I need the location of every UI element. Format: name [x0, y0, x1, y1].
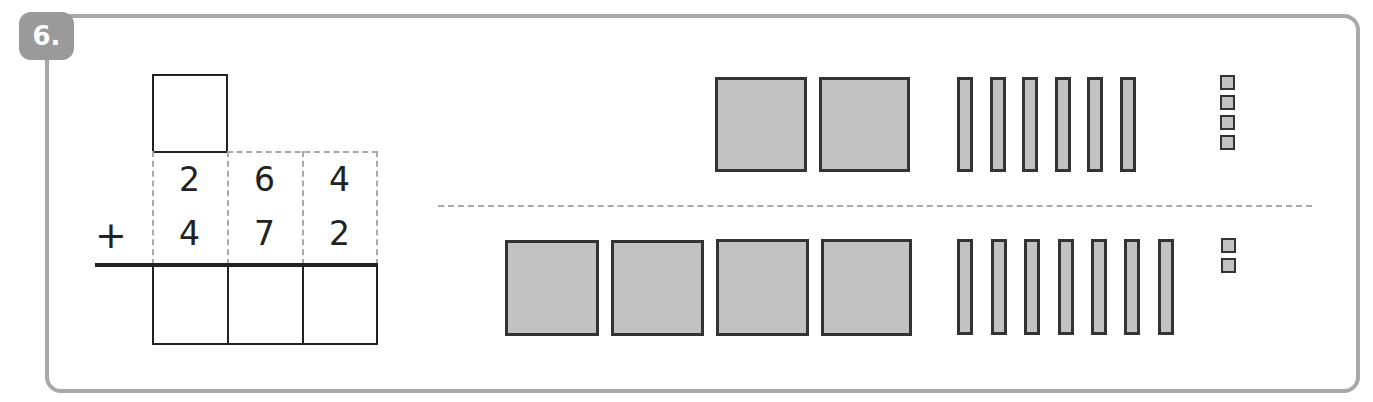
ten-rod: [1120, 77, 1136, 172]
ten-rod: [957, 239, 973, 335]
addend-1-hundreds: 2: [152, 160, 227, 199]
addend-1-tens: 6: [227, 160, 302, 199]
unit-cube: [1221, 258, 1236, 273]
hundred-block: [715, 77, 807, 172]
unit-cube: [1220, 135, 1235, 150]
ten-rod: [991, 239, 1007, 335]
addend-2-hundreds: 4: [152, 214, 227, 253]
ten-rod: [1087, 77, 1103, 172]
unit-cube: [1221, 238, 1236, 253]
ten-rod: [1091, 239, 1107, 335]
hundred-block: [716, 239, 809, 336]
ten-rod: [1055, 77, 1071, 172]
unit-cube: [1220, 75, 1235, 90]
unit-cube: [1220, 115, 1235, 130]
unit-cube: [1220, 95, 1235, 110]
answer-box-ones[interactable]: [302, 265, 378, 345]
hundred-block: [821, 239, 912, 336]
ten-rod: [1124, 239, 1140, 335]
exercise-number-badge: 6.: [19, 12, 74, 60]
ten-rod: [1022, 77, 1038, 172]
addend-2-ones: 2: [302, 214, 377, 253]
addend-2-tens: 7: [227, 214, 302, 253]
hundred-block: [505, 240, 599, 336]
answer-box-tens[interactable]: [227, 265, 304, 345]
carry-box[interactable]: [152, 74, 228, 153]
addend-1-ones: 4: [302, 160, 377, 199]
ten-rod: [1058, 239, 1074, 335]
answer-box-hundreds[interactable]: [152, 265, 229, 345]
ten-rod: [1024, 239, 1040, 335]
ten-rod: [957, 77, 973, 172]
hundred-block: [611, 240, 704, 336]
ten-rod: [990, 77, 1006, 172]
hundred-block: [819, 77, 910, 172]
row-divider-dashed: [438, 205, 1312, 207]
plus-sign: +: [95, 213, 127, 257]
ten-rod: [1158, 239, 1174, 335]
